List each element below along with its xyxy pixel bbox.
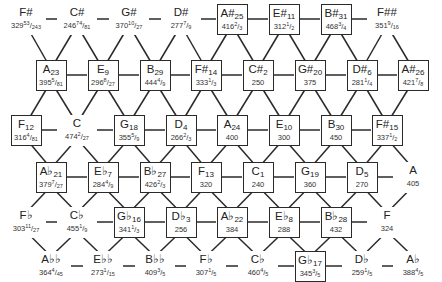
lattice-node: A405 <box>393 162 433 193</box>
lattice-node: A♭♭3644/45 <box>31 251 71 282</box>
lattice-edge <box>315 33 332 61</box>
lattice-node: F13320 <box>191 162 222 193</box>
note-name: B29 <box>141 63 170 76</box>
lattice-node: A♭22384 <box>217 207 248 238</box>
frequency-value: 4162/3 <box>218 22 247 32</box>
note-index: 10 <box>283 123 292 132</box>
lattice-edge <box>341 89 358 116</box>
note-index: 13 <box>205 170 214 179</box>
frequency-value: 3644/45 <box>31 268 71 278</box>
lattice-edge <box>263 144 280 163</box>
lattice-edge <box>134 33 151 61</box>
lattice-edge <box>289 89 306 116</box>
frequency-value: 240 <box>244 180 273 190</box>
lattice-edge <box>56 191 73 208</box>
lattice-edge <box>211 89 228 116</box>
note-name: A <box>393 164 433 177</box>
lattice-node: G#20375 <box>295 60 326 91</box>
note-name: A♭ <box>393 253 433 266</box>
note-name: F13 <box>192 165 221 178</box>
lattice-edge <box>315 191 332 208</box>
lattice-node: C1240 <box>243 162 274 193</box>
note-index: 15 <box>389 123 398 132</box>
frequency-value: 4444/9 <box>141 78 170 88</box>
note-index: 28 <box>338 215 347 224</box>
lattice-edge <box>82 144 99 163</box>
lattice-node: A#254162/3 <box>217 4 248 35</box>
lattice-edge <box>108 144 125 163</box>
note-index: 23 <box>50 68 59 77</box>
note-name: E10 <box>270 118 299 131</box>
note-index: 25 <box>235 12 244 21</box>
lattice-node: A♭3884/5 <box>393 251 433 282</box>
lattice-edge <box>82 33 99 61</box>
note-name: C♭ <box>57 209 97 222</box>
note-name: A#25 <box>218 7 247 20</box>
note-name: F# <box>6 6 46 19</box>
frequency-value: 300 <box>270 133 299 143</box>
frequency-value: 3071/5 <box>186 268 226 278</box>
lattice-node: B#314683/4 <box>321 4 352 35</box>
lattice-edge <box>160 191 177 208</box>
lattice-node: D#2777/9 <box>161 4 201 35</box>
lattice-edge <box>367 89 383 116</box>
lattice-node: G19360 <box>295 162 326 193</box>
lattice-node: A♭213797/27 <box>36 162 67 193</box>
lattice-node: B♭274262/3 <box>140 162 171 193</box>
note-name: A♭21 <box>37 165 66 178</box>
note-name: B#31 <box>322 7 351 20</box>
lattice-edge <box>392 33 409 61</box>
note-name: A24 <box>218 118 247 131</box>
note-index: 31 <box>339 12 348 21</box>
lattice-edge <box>263 191 280 208</box>
frequency-value: 270 <box>348 180 377 190</box>
lattice-edge <box>289 33 306 61</box>
frequency-value: 2811/4 <box>348 78 377 88</box>
lattice-edge <box>392 89 409 116</box>
lattice-edge <box>211 191 228 208</box>
frequency-value: 3164/81 <box>12 133 41 143</box>
lattice-node: F324 <box>367 207 407 238</box>
frequency-value: 4604/5 <box>238 268 278 278</box>
note-index: 26 <box>416 68 425 77</box>
lattice-node: G183555/9 <box>114 115 145 146</box>
frequency-value: 2731/15 <box>83 268 123 278</box>
lattice-node: D5270 <box>347 162 378 193</box>
frequency-value: 324 <box>367 224 407 234</box>
lattice-node: F#143331/3 <box>191 60 222 91</box>
lattice-edge <box>186 33 202 61</box>
lattice-edge <box>237 33 254 61</box>
note-name: G18 <box>115 118 144 131</box>
note-index: 5 <box>364 170 368 179</box>
lattice-edge <box>289 191 306 208</box>
frequency-value: 24674/81 <box>57 21 97 31</box>
lattice-node: C#24674/81 <box>57 4 97 35</box>
note-name: F12 <box>12 118 41 131</box>
note-name: D4 <box>167 118 196 131</box>
note-name: G♭16 <box>115 210 144 223</box>
note-name: D# <box>161 6 201 19</box>
note-index: 4 <box>183 123 187 132</box>
note-index: 14 <box>208 68 217 77</box>
note-name: G19 <box>296 165 325 178</box>
lattice-edge <box>367 33 383 61</box>
frequency-value: 3453/5 <box>296 269 325 279</box>
frequency-value: 3797/27 <box>37 180 66 190</box>
note-index: 30 <box>335 123 344 132</box>
note-index: 24 <box>231 123 240 132</box>
note-index: 29 <box>154 68 163 77</box>
lattice-node: G♭163411/3 <box>114 207 145 238</box>
lattice-node: E#113121/2 <box>269 4 300 35</box>
note-index: 20 <box>313 68 322 77</box>
note-name: D♭3 <box>167 210 196 223</box>
frequency-value: 3121/2 <box>270 22 299 32</box>
note-index: 6 <box>367 68 371 77</box>
lattice-node: G♭173453/5 <box>295 251 326 282</box>
frequency-value: 4262/3 <box>141 180 170 190</box>
note-name: C <box>57 117 97 130</box>
note-name: F## <box>367 6 407 19</box>
lattice-node: B30450 <box>321 115 352 146</box>
lattice-edge <box>31 191 47 208</box>
tone-lattice-diagram: F#32953/243C#24674/81G#37010/27D#2777/9A… <box>0 0 442 282</box>
frequency-value: 4093/5 <box>135 268 175 278</box>
